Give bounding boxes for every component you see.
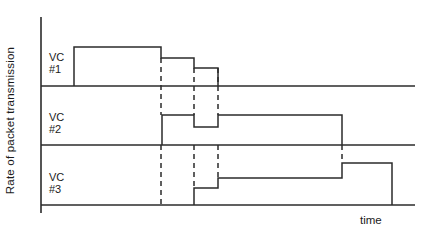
track-label-vc2-line1: VC bbox=[49, 111, 64, 123]
x-axis-title: time bbox=[360, 214, 382, 226]
track-label-vc1-line1: VC bbox=[49, 51, 64, 63]
track-label-vc3-line1: VC bbox=[49, 171, 64, 183]
rate-of-packet-transmission-diagram: Rate of packet transmission time VC #1 V… bbox=[0, 0, 424, 241]
track-label-vc1-line2: #1 bbox=[49, 63, 64, 75]
track-label-vc1: VC #1 bbox=[49, 51, 64, 75]
track-label-vc2-line2: #2 bbox=[49, 123, 64, 135]
vc3-step-trace bbox=[194, 163, 392, 205]
vc2-step-trace bbox=[162, 115, 342, 145]
track-label-vc3-line2: #3 bbox=[49, 183, 64, 195]
event-guides bbox=[161, 58, 342, 205]
vc1-step-trace bbox=[74, 47, 218, 86]
track-label-vc3: VC #3 bbox=[49, 171, 64, 195]
track-label-vc2: VC #2 bbox=[49, 111, 64, 135]
